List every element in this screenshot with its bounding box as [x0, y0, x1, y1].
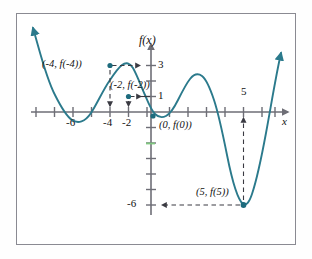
point-neg2 — [126, 94, 131, 99]
y-axis — [146, 44, 156, 215]
x-tick-label-neg6: -6 — [66, 116, 75, 128]
point-zero — [150, 113, 155, 118]
x-tick-label-neg2: -2 — [122, 116, 131, 128]
y-tick-label-3: 3 — [158, 58, 164, 70]
x-axis-label: x — [282, 115, 287, 127]
annotation-zero: (0, f(0)) — [159, 119, 192, 130]
y-axis-label: f(x) — [139, 33, 156, 48]
figure-canvas: f(x) x 3 1 -6 -6 -4 -2 5 (-4, f(-4)) (-2… — [0, 0, 312, 259]
point-neg4 — [107, 63, 112, 68]
x-tick-label-neg4: -4 — [103, 116, 112, 128]
x-tick-label-5: 5 — [241, 85, 247, 97]
y-tick-label-1: 1 — [158, 89, 164, 101]
graph-svg — [0, 0, 312, 259]
point-five — [241, 202, 247, 208]
annotation-neg4: (-4, f(-4)) — [42, 58, 82, 69]
annotation-five: (5, f(5)) — [196, 186, 229, 197]
annotation-neg2: (-2, f(-2)) — [110, 79, 150, 90]
y-tick-label-neg6: -6 — [127, 197, 136, 209]
